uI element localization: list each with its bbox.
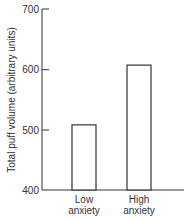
ytick-label: 700 [22,4,39,15]
category-label-low: anxiety [68,205,100,216]
category-label-high: anxiety [123,205,155,216]
ytick-label: 500 [22,125,39,136]
ytick-label: 400 [22,185,39,196]
y-axis: 700 600 500 400 [22,4,49,196]
category-labels: Low anxiety High anxiety [68,194,155,216]
category-label-high: High [129,194,150,205]
y-axis-label: Total puff volume (arbitrary units) [6,27,17,172]
bars [72,65,151,190]
ytick-label: 600 [22,64,39,75]
bar-high-anxiety [127,65,151,190]
bar-low-anxiety [72,125,96,190]
category-label-low: Low [75,194,94,205]
bar-chart: 700 600 500 400 Total puff volume (arbit… [0,0,184,221]
